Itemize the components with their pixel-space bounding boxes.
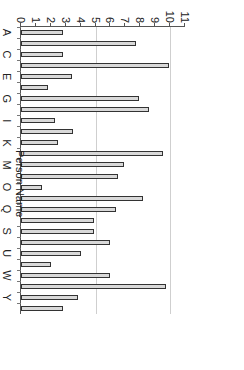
bar-k bbox=[21, 140, 58, 145]
x-tick-label: S bbox=[1, 221, 13, 241]
x-tick-label: M bbox=[1, 155, 13, 175]
bar-s bbox=[21, 229, 94, 234]
x-tick bbox=[17, 137, 21, 138]
bar-g bbox=[21, 96, 139, 101]
y-tick-label: 1 bbox=[30, 5, 42, 23]
bar-y bbox=[21, 295, 78, 300]
bar-b bbox=[21, 41, 136, 46]
x-tick bbox=[17, 104, 21, 105]
x-tick bbox=[17, 71, 21, 72]
x-tick bbox=[17, 60, 21, 61]
y-tick-label: 0 bbox=[15, 5, 27, 23]
gridline bbox=[170, 27, 171, 314]
x-tick bbox=[17, 115, 21, 116]
bar-c bbox=[21, 52, 63, 57]
x-tick bbox=[17, 237, 21, 238]
bar-m bbox=[21, 162, 124, 167]
x-tick bbox=[17, 82, 21, 83]
x-tick bbox=[17, 292, 21, 293]
y-tick-label: 7 bbox=[119, 5, 131, 23]
x-tick-label: G bbox=[1, 89, 13, 109]
y-tick bbox=[80, 23, 81, 27]
y-tick bbox=[139, 23, 140, 27]
bar-chart: 01234567891011ACEGIKMOQSUWY Person Name … bbox=[0, 0, 244, 370]
bar-p bbox=[21, 196, 143, 201]
bar-i bbox=[21, 118, 55, 123]
x-tick-label: C bbox=[1, 45, 13, 65]
y-tick bbox=[95, 23, 96, 27]
bar-l bbox=[21, 151, 163, 156]
bar-j bbox=[21, 129, 73, 134]
y-tick-label: 6 bbox=[104, 5, 116, 23]
x-tick bbox=[17, 270, 21, 271]
bar-w bbox=[21, 273, 110, 278]
y-tick-label: 5 bbox=[90, 5, 102, 23]
x-tick bbox=[17, 303, 21, 304]
x-tick bbox=[17, 93, 21, 94]
y-tick-label: 4 bbox=[75, 5, 87, 23]
gridline bbox=[96, 27, 97, 314]
bar-t bbox=[21, 240, 110, 245]
x-tick-label: Q bbox=[1, 199, 13, 219]
y-tick-label: 2 bbox=[45, 5, 57, 23]
y-tick bbox=[169, 23, 170, 27]
bar-d bbox=[21, 63, 169, 68]
y-tick bbox=[50, 23, 51, 27]
y-tick-label: 11 bbox=[179, 5, 191, 23]
y-tick-label: 9 bbox=[149, 5, 161, 23]
x-tick bbox=[17, 259, 21, 260]
y-tick-label: 8 bbox=[134, 5, 146, 23]
x-tick-label: W bbox=[1, 265, 13, 285]
plot-area: 01234567891011ACEGIKMOQSUWY bbox=[21, 27, 185, 314]
bar-v bbox=[21, 262, 51, 267]
x-tick bbox=[17, 248, 21, 249]
bar-a bbox=[21, 30, 63, 35]
y-tick bbox=[65, 23, 66, 27]
x-tick-label: E bbox=[1, 67, 13, 87]
y-tick-label: 3 bbox=[60, 5, 72, 23]
bar-h bbox=[21, 107, 149, 112]
x-tick-label: K bbox=[1, 133, 13, 153]
x-tick-label: U bbox=[1, 243, 13, 263]
y-tick bbox=[35, 23, 36, 27]
bar-z bbox=[21, 306, 63, 311]
x-tick bbox=[17, 49, 21, 50]
bar-q bbox=[21, 207, 116, 212]
y-tick bbox=[154, 23, 155, 27]
y-tick bbox=[109, 23, 110, 27]
x-tick-label: Y bbox=[1, 287, 13, 307]
x-tick-label: I bbox=[1, 111, 13, 131]
bar-x bbox=[21, 284, 166, 289]
bar-u bbox=[21, 251, 81, 256]
x-tick bbox=[17, 281, 21, 282]
x-tick bbox=[17, 38, 21, 39]
y-tick bbox=[124, 23, 125, 27]
bar-e bbox=[21, 74, 72, 79]
y-tick-label: 10 bbox=[164, 5, 176, 23]
bar-r bbox=[21, 218, 94, 223]
x-tick bbox=[17, 27, 21, 28]
x-tick bbox=[17, 226, 21, 227]
bar-f bbox=[21, 85, 48, 90]
x-axis-title: Person Name bbox=[14, 150, 26, 217]
y-tick bbox=[184, 23, 185, 27]
y-axis-line bbox=[21, 26, 185, 27]
x-tick bbox=[17, 126, 21, 127]
bar-n bbox=[21, 174, 118, 179]
x-tick-label: O bbox=[1, 177, 13, 197]
x-tick-label: A bbox=[1, 23, 13, 43]
